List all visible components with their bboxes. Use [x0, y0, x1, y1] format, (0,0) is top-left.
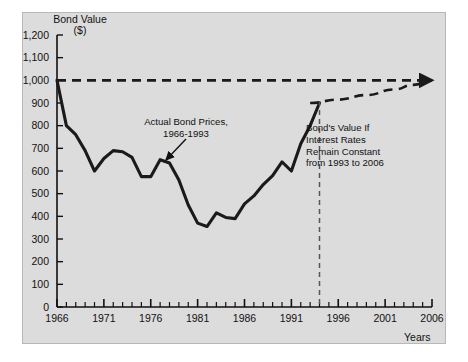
x-axis-tick-label: 1996 [327, 312, 351, 324]
y-axis-title-line2: ($) [44, 25, 116, 36]
actual-bond-prices-line [57, 80, 320, 226]
y-axis-tick-label: 500 [31, 187, 49, 199]
y-axis-tick-label: 600 [31, 165, 49, 177]
annotation-projected-line-1: Bond's Value If [306, 122, 418, 134]
y-axis-ticks [57, 35, 63, 307]
x-axis-tick-labels: 196619711976198119861991199620012006 [45, 312, 444, 324]
x-axis-tick-label: 1981 [186, 312, 210, 324]
annotation-projected-line-3: Remain Constant [306, 146, 418, 158]
y-axis-tick-labels: 01002003004005006007008009001,0001,1001,… [23, 29, 49, 313]
x-axis-title: Years [404, 331, 430, 343]
y-axis-tick-label: 300 [31, 233, 49, 245]
axes-group [57, 35, 432, 307]
x-axis-tick-label: 1976 [139, 312, 163, 324]
y-axis-tick-label: 100 [31, 278, 49, 290]
actual-prices-annotation-arrow [166, 139, 186, 160]
x-axis-tick-label: 1971 [92, 312, 116, 324]
y-axis-tick-label: 200 [31, 255, 49, 267]
y-axis-tick-label: 700 [31, 142, 49, 154]
projected-value-dashed-curve [310, 80, 432, 103]
x-axis-tick-label: 2001 [373, 312, 397, 324]
bond-value-chart-figure: 01002003004005006007008009001,0001,1001,… [0, 0, 468, 362]
x-axis-tick-label: 2006 [420, 312, 444, 324]
annotation-projected-line-4: from 1993 to 2006 [306, 157, 418, 169]
y-axis-title: Bond Value ($) [44, 14, 116, 36]
annotation-projected-value: Bond's Value If Interest Rates Remain Co… [306, 122, 418, 169]
annotation-actual-bond-prices: Actual Bond Prices, 1966-1993 [138, 116, 234, 139]
y-axis-tick-label: 800 [31, 119, 49, 131]
y-axis-tick-label: 400 [31, 210, 49, 222]
y-axis-tick-label: 900 [31, 97, 49, 109]
y-axis-tick-label: 0 [43, 301, 49, 313]
annotation-actual-line-1: Actual Bond Prices, [138, 116, 234, 128]
y-axis-tick-label: 1,100 [23, 51, 49, 63]
annotation-actual-line-2: 1966-1993 [138, 128, 234, 140]
y-axis-tick-label: 1,000 [23, 74, 49, 86]
chart-canvas: 01002003004005006007008009001,0001,1001,… [0, 0, 468, 362]
x-axis-tick-label: 1991 [280, 312, 304, 324]
x-axis-tick-label: 1966 [45, 312, 69, 324]
annotation-projected-line-2: Interest Rates [306, 134, 418, 146]
x-axis-tick-label: 1986 [233, 312, 257, 324]
x-axis-ticks [57, 299, 432, 307]
